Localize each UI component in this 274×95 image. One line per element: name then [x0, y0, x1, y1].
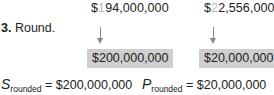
value-rest: 94,000,000 [105, 1, 169, 15]
rounded-value-box-p: $20,000,000 [199, 49, 274, 68]
step-number: 3. [1, 21, 11, 35]
equation-p-rounded: Prounded = $20,000,000 [142, 76, 266, 92]
equals-sign: = [183, 78, 197, 92]
equals-sign: = [42, 78, 56, 92]
rounded-value-box-s: $200,000,000 [87, 49, 173, 68]
subscript: rounded [10, 84, 41, 94]
value-rest: 2,556,000 [218, 1, 274, 15]
down-arrow-icon [210, 38, 216, 44]
step-text: Round. [15, 21, 55, 35]
original-value-s: $194,000,000 [91, 1, 169, 15]
currency-symbol: $ [204, 1, 211, 15]
equation-value: $20,000,000 [197, 78, 267, 92]
down-arrow-icon [97, 38, 103, 44]
step-label: 3. Round. [1, 21, 55, 35]
equation-s-rounded: Srounded = $200,000,000 [1, 76, 132, 92]
currency-symbol: $ [91, 1, 98, 15]
variable-p: P [142, 76, 151, 92]
variable-s: S [1, 76, 10, 92]
subscript: rounded [151, 84, 182, 94]
original-value-p: $22,556,000 [204, 1, 274, 15]
equation-value: $200,000,000 [56, 78, 132, 92]
